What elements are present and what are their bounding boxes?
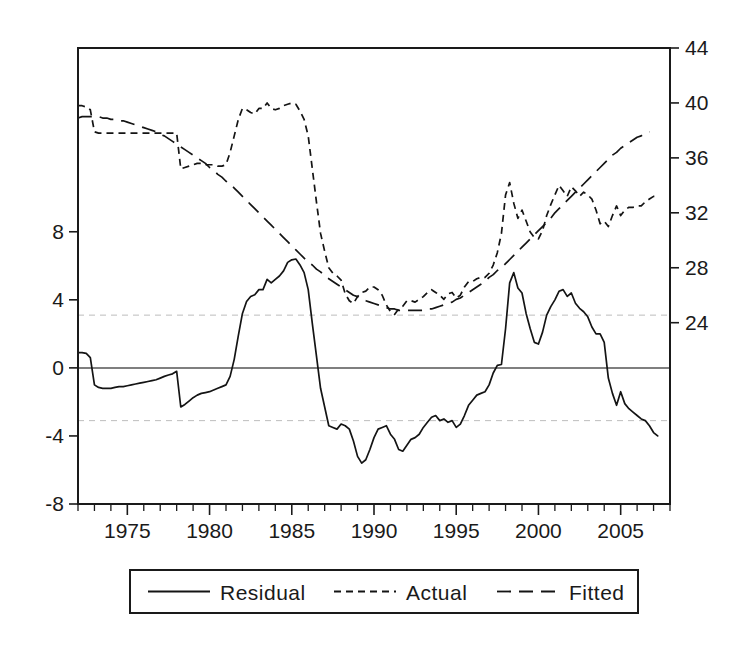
right-axis-label: 44 xyxy=(685,36,709,59)
left-axis-label: 8 xyxy=(52,220,64,243)
right-axis-label: 36 xyxy=(685,146,708,169)
x-axis-label: 1975 xyxy=(104,519,151,542)
legend-label-actual: Actual xyxy=(406,581,467,604)
chart-legend: ResidualActualFitted xyxy=(130,570,638,613)
x-axis-label: 1995 xyxy=(433,519,480,542)
x-axis-label: 2005 xyxy=(597,519,644,542)
plot-background xyxy=(78,48,670,504)
left-axis-label: 0 xyxy=(52,356,64,379)
x-axis-label: 1985 xyxy=(268,519,315,542)
chart-canvas: 840-4-8 444036322824 1975198019851990199… xyxy=(0,0,756,652)
left-axis: 840-4-8 xyxy=(45,220,78,515)
bottom-axis: 1975198019851990199520002005 xyxy=(78,504,670,542)
right-axis-label: 32 xyxy=(685,201,708,224)
right-axis-label: 28 xyxy=(685,256,708,279)
right-axis-label: 40 xyxy=(685,91,708,114)
x-axis-label: 2000 xyxy=(515,519,562,542)
legend-label-fitted: Fitted xyxy=(569,581,625,604)
left-axis-label: -8 xyxy=(45,492,64,515)
right-axis-label: 24 xyxy=(685,311,709,334)
x-axis-label: 1980 xyxy=(186,519,233,542)
left-axis-label: -4 xyxy=(45,424,64,447)
actual-fitted-residual-chart: 840-4-8 444036322824 1975198019851990199… xyxy=(0,0,756,652)
left-axis-label: 4 xyxy=(52,288,64,311)
x-axis-label: 1990 xyxy=(351,519,398,542)
legend-label-residual: Residual xyxy=(220,581,306,604)
right-axis: 444036322824 xyxy=(670,36,709,334)
